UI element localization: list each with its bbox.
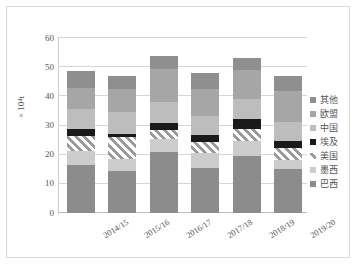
legend-swatch-icon	[310, 167, 316, 173]
gridline	[58, 125, 307, 126]
bar-segment[interactable]	[233, 70, 261, 99]
bar-segment[interactable]	[150, 56, 178, 69]
legend-item[interactable]: 埃及	[310, 135, 358, 149]
chart-legend: 其他欧盟中国埃及美国墨西巴西	[310, 93, 358, 191]
x-axis-tick-label: 2017/18	[225, 217, 254, 240]
x-axis-tick-label: 2016/17	[184, 217, 213, 240]
bar-segment[interactable]	[150, 123, 178, 130]
bar-segment[interactable]	[108, 171, 136, 213]
bar-segment[interactable]	[233, 156, 261, 213]
y-axis-title-text: × 10⁴t	[16, 96, 26, 118]
legend-item[interactable]: 巴西	[310, 177, 358, 191]
gridline	[58, 37, 307, 38]
bar-segment[interactable]	[274, 122, 302, 141]
x-axis-tick-label: 2015/16	[142, 217, 171, 240]
y-axis-tick-label: 50	[28, 63, 54, 72]
bar-segment[interactable]	[233, 141, 261, 156]
bar-segment[interactable]	[108, 89, 136, 112]
bar-segment[interactable]	[191, 116, 219, 136]
legend-swatch-icon	[310, 111, 316, 117]
plot-area	[58, 38, 307, 213]
bar-segment[interactable]	[108, 134, 136, 137]
bar-segment[interactable]	[150, 152, 178, 213]
bar-segment[interactable]	[274, 91, 302, 121]
bar-segment[interactable]	[67, 165, 95, 213]
bar-segment[interactable]	[191, 73, 219, 89]
bar-segment[interactable]	[191, 168, 219, 213]
bar-segment[interactable]	[274, 169, 302, 213]
bar-segment[interactable]	[274, 148, 302, 160]
bar-segment[interactable]	[191, 153, 219, 168]
legend-swatch-icon	[310, 153, 316, 159]
bar-2016-17[interactable]	[150, 56, 178, 213]
bar-segment[interactable]	[274, 141, 302, 148]
y-axis-tick-label: 60	[28, 34, 54, 43]
bar-segment[interactable]	[233, 119, 261, 130]
legend-item[interactable]: 中国	[310, 121, 358, 135]
bar-segment[interactable]	[191, 89, 219, 116]
bar-segment[interactable]	[274, 76, 302, 92]
bar-segment[interactable]	[233, 129, 261, 141]
legend-item[interactable]: 其他	[310, 93, 358, 107]
bar-2018-19[interactable]	[233, 58, 261, 213]
gridline	[58, 212, 307, 213]
x-axis-tick-label: 2018/19	[267, 217, 296, 240]
bar-segment[interactable]	[108, 76, 136, 89]
legend-label: 美国	[320, 151, 338, 161]
bar-segment[interactable]	[67, 129, 95, 136]
y-axis-tick-label: 20	[28, 150, 54, 159]
bar-segment[interactable]	[150, 69, 178, 102]
gridline	[58, 154, 307, 155]
bar-segment[interactable]	[191, 142, 219, 153]
legend-label: 其他	[320, 95, 338, 105]
legend-swatch-icon	[310, 125, 316, 131]
bar-segment[interactable]	[67, 109, 95, 129]
bar-segment[interactable]	[191, 135, 219, 141]
gridline	[58, 66, 307, 67]
bar-segment[interactable]	[150, 130, 178, 139]
bar-segment[interactable]	[274, 160, 302, 169]
bar-segment[interactable]	[67, 151, 95, 164]
chart-container: 0102030405060 × 10⁴t 2014/152015/162016/…	[6, 6, 350, 258]
bar-segment[interactable]	[233, 58, 261, 70]
bar-segment[interactable]	[108, 137, 136, 158]
bar-segment[interactable]	[233, 99, 261, 119]
bar-2014-15[interactable]	[67, 71, 95, 213]
bar-segment[interactable]	[67, 88, 95, 108]
bar-2019-20[interactable]	[274, 76, 302, 213]
legend-swatch-icon	[310, 181, 316, 187]
y-axis-tick-label: 30	[28, 121, 54, 130]
bar-segment[interactable]	[150, 102, 178, 122]
legend-label: 中国	[320, 123, 338, 133]
y-axis-ticks: 0102030405060	[26, 38, 54, 213]
bar-segment[interactable]	[108, 112, 136, 134]
bar-segment[interactable]	[67, 136, 95, 151]
legend-item[interactable]: 墨西	[310, 163, 358, 177]
bar-2017-18[interactable]	[191, 73, 219, 213]
y-axis-title: × 10⁴t	[16, 77, 26, 137]
x-axis-ticks: 2014/152015/162016/172017/182018/192019/…	[58, 217, 307, 257]
bar-2015-16[interactable]	[108, 76, 136, 213]
y-axis-tick-label: 40	[28, 92, 54, 101]
legend-swatch-icon	[310, 97, 316, 103]
legend-label: 欧盟	[320, 109, 338, 119]
bar-segment[interactable]	[67, 71, 95, 89]
legend-label: 墨西	[320, 165, 338, 175]
gridline	[58, 95, 307, 96]
legend-label: 巴西	[320, 179, 338, 189]
legend-swatch-icon	[310, 139, 316, 145]
x-axis-tick-label: 2019/20	[308, 217, 337, 240]
x-axis-tick-label: 2014/15	[101, 217, 130, 240]
gridline	[58, 183, 307, 184]
bar-segment[interactable]	[150, 139, 178, 152]
legend-item[interactable]: 美国	[310, 149, 358, 163]
legend-label: 埃及	[320, 137, 338, 147]
y-axis-tick-label: 0	[28, 209, 54, 218]
legend-item[interactable]: 欧盟	[310, 107, 358, 121]
bar-segment[interactable]	[108, 159, 136, 172]
y-axis-tick-label: 10	[28, 179, 54, 188]
